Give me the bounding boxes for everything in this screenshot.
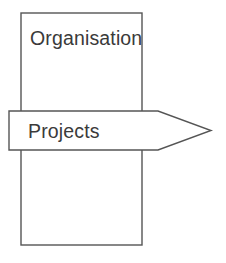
organisation-box-label: Organisation (30, 27, 142, 49)
projects-arrow-label: Projects (28, 120, 100, 142)
projects-arrow-group[interactable]: Projects (9, 111, 211, 150)
diagram-svg: Organisation Projects (0, 0, 226, 263)
diagram-canvas: Organisation Projects (0, 0, 226, 263)
